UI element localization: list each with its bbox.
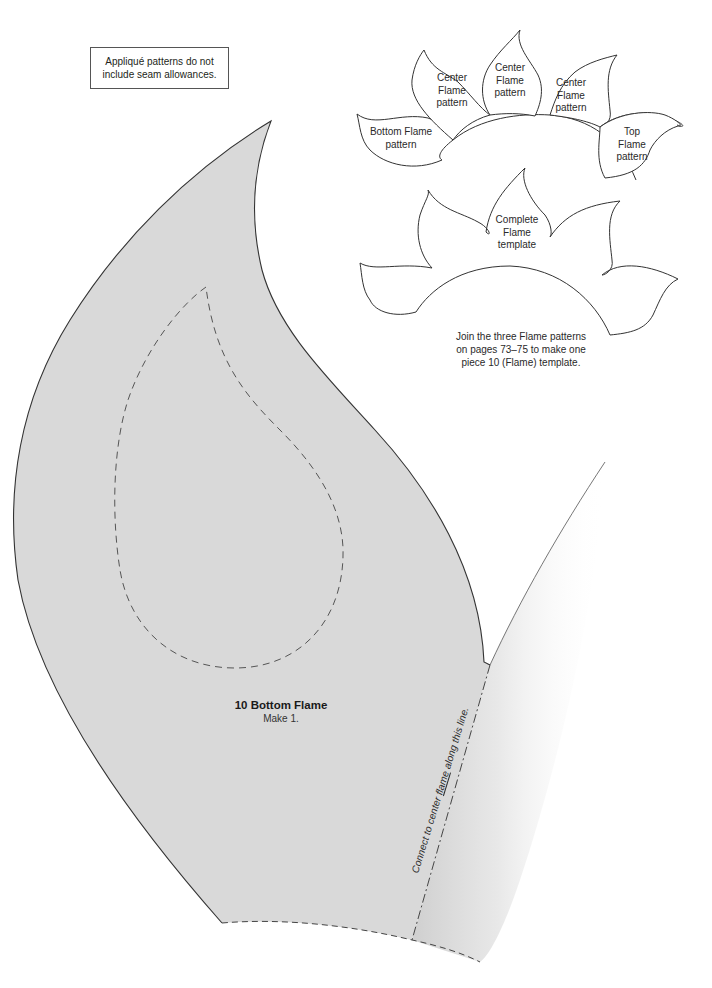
bottom-flame-piece bbox=[14, 121, 490, 962]
label-line: Flame bbox=[436, 85, 467, 98]
label-line: Complete bbox=[496, 214, 539, 227]
complete-flame-template bbox=[360, 168, 678, 335]
label-line: pattern bbox=[370, 139, 432, 152]
join-line-1: Join the three Flame patterns bbox=[456, 330, 586, 343]
label-line: Flame bbox=[616, 139, 647, 152]
label-center-flame-right: Center Flame pattern bbox=[555, 77, 586, 115]
piece-quantity: Make 1. bbox=[235, 712, 328, 725]
piece-title: 10 Bottom Flame Make 1. bbox=[235, 698, 328, 725]
note-line-1: Appliqué patterns do not bbox=[105, 55, 213, 68]
piece-name: 10 Bottom Flame bbox=[235, 698, 328, 712]
label-line: pattern bbox=[616, 151, 647, 164]
label-center-flame-left: Center Flame pattern bbox=[436, 72, 467, 110]
join-line-2: on pages 73–75 to make one bbox=[456, 343, 586, 356]
label-line: Center bbox=[555, 77, 586, 90]
label-center-flame-middle: Center Flame pattern bbox=[494, 62, 525, 100]
label-line: template bbox=[496, 239, 539, 252]
label-line: Top bbox=[616, 126, 647, 139]
label-line: Flame bbox=[496, 227, 539, 240]
pattern-artwork bbox=[0, 0, 712, 988]
label-bottom-flame: Bottom Flame pattern bbox=[370, 126, 432, 151]
label-line: Flame bbox=[494, 75, 525, 88]
join-instructions: Join the three Flame patterns on pages 7… bbox=[456, 330, 586, 369]
label-line: Center bbox=[494, 62, 525, 75]
label-line: pattern bbox=[494, 87, 525, 100]
label-line: Flame bbox=[555, 90, 586, 103]
label-line: pattern bbox=[555, 102, 586, 115]
join-line-3: piece 10 (Flame) template. bbox=[456, 356, 586, 369]
label-top-flame: Top Flame pattern bbox=[616, 126, 647, 164]
seam-allowance-note: Appliqué patterns do not include seam al… bbox=[90, 47, 229, 89]
label-line: pattern bbox=[436, 97, 467, 110]
note-line-2: include seam allowances. bbox=[103, 68, 217, 81]
label-line: Center bbox=[436, 72, 467, 85]
label-line: Bottom Flame bbox=[370, 126, 432, 139]
label-complete-flame: Complete Flame template bbox=[496, 214, 539, 252]
